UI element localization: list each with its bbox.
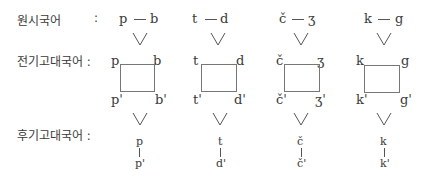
early-voiced: d: [236, 54, 244, 67]
connector-line: [301, 148, 302, 157]
early-voiceless: t: [193, 54, 198, 67]
correlation-square: [284, 64, 320, 92]
late-top: t: [218, 136, 222, 147]
merge-arrow-icon: [294, 33, 308, 46]
merge-arrow-icon: [211, 33, 225, 46]
late-top: k: [380, 136, 387, 147]
label-proto-korean: 원시국어: [17, 11, 61, 28]
early-voiced-prime: d': [234, 93, 246, 106]
correlation-square: [364, 65, 400, 93]
connector-line: [139, 148, 140, 157]
late-bottom: p': [135, 158, 145, 169]
correlation-square: [201, 64, 237, 92]
late-top: č: [297, 136, 303, 147]
connector-line: [384, 148, 385, 157]
dash: [134, 19, 146, 20]
early-voiced: g: [401, 54, 409, 67]
merge-arrow-icon: [133, 33, 147, 46]
late-bottom: d': [216, 158, 226, 169]
late-top: p: [136, 136, 143, 147]
dash: [205, 19, 217, 20]
proto-voiceless: č: [279, 12, 286, 25]
early-voiceless-prime: p': [111, 93, 123, 106]
proto-voiceless: k: [364, 12, 372, 25]
late-bottom: k': [380, 158, 390, 169]
dash: [378, 19, 390, 20]
proto-voiced: d: [220, 12, 228, 25]
correlation-square: [120, 64, 155, 92]
merge-arrow-icon: [377, 33, 391, 46]
proto-voiceless: p: [119, 12, 127, 25]
early-voiceless: p: [111, 54, 119, 67]
late-bottom: č': [297, 158, 306, 169]
merge-arrow-icon: [213, 113, 227, 126]
label-proto-colon: :: [94, 11, 98, 25]
early-voiced-prime: ʒ': [315, 93, 326, 106]
early-voiceless-prime: t': [193, 93, 202, 106]
early-voiced-prime: g': [400, 93, 412, 106]
proto-voiced: ʒ: [308, 12, 315, 25]
merge-arrow-icon: [294, 113, 308, 126]
early-voiceless-prime: k': [356, 93, 367, 106]
proto-voiced: g: [395, 12, 403, 25]
label-late-old-korean: 후기고대국어 :: [17, 126, 91, 143]
early-voiceless-prime: č': [276, 93, 287, 106]
early-voiceless: č: [276, 54, 283, 67]
label-early-old-korean: 전기고대국어 :: [17, 52, 91, 69]
connector-line: [220, 148, 221, 157]
proto-voiced: b: [150, 12, 158, 25]
early-voiceless: k: [356, 54, 364, 67]
proto-voiceless: t: [192, 12, 197, 25]
dash: [292, 19, 304, 20]
early-voiced-prime: b': [155, 93, 167, 106]
merge-arrow-icon: [377, 113, 391, 126]
merge-arrow-icon: [133, 113, 147, 126]
